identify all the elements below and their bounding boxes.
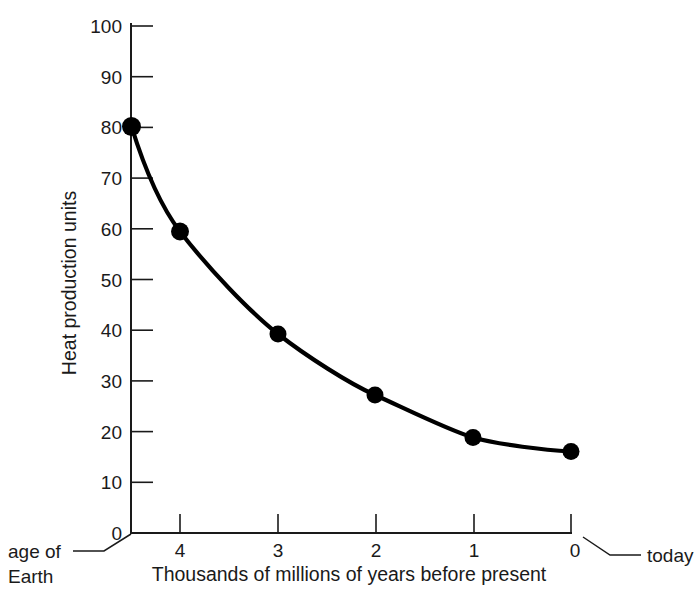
data-point-1 — [171, 223, 189, 241]
y-tick-label-90: 90 — [101, 67, 122, 88]
heat-production-curve — [132, 127, 572, 452]
x-axis-title: Thousands of millions of years before pr… — [152, 563, 547, 585]
age-of-earth-label-line2: Earth — [8, 566, 53, 587]
x-tick-label-0: 0 — [570, 540, 581, 561]
x-tick-label-3: 3 — [273, 540, 284, 561]
age-of-earth-leader-line — [73, 534, 131, 551]
y-tick-label-60: 60 — [101, 219, 122, 240]
data-point-0 — [122, 117, 141, 136]
annotation-today: today — [583, 537, 694, 566]
axis-frame — [131, 24, 571, 533]
x-tick-label-1: 1 — [469, 540, 480, 561]
data-point-2 — [270, 326, 287, 343]
age-of-earth-label-line1: age of — [8, 541, 62, 562]
y-axis-title: Heat production units — [58, 191, 80, 376]
x-axis-tick-labels: 4 3 2 1 0 — [175, 540, 581, 561]
data-point-3 — [367, 387, 384, 404]
x-tick-label-2: 2 — [371, 540, 382, 561]
y-tick-label-80: 80 — [101, 117, 122, 138]
data-points — [122, 117, 580, 460]
today-label: today — [647, 545, 694, 566]
x-axis-ticks — [180, 514, 571, 533]
y-tick-label-50: 50 — [101, 270, 122, 291]
y-tick-label-70: 70 — [101, 168, 122, 189]
x-tick-label-4: 4 — [175, 540, 186, 561]
y-tick-label-10: 10 — [101, 472, 122, 493]
y-tick-label-100: 100 — [90, 16, 122, 37]
y-axis-tick-labels: 100 90 80 70 60 50 40 30 20 10 0 — [90, 16, 122, 544]
y-tick-label-30: 30 — [101, 371, 122, 392]
today-leader-line — [583, 537, 641, 555]
y-tick-label-40: 40 — [101, 320, 122, 341]
y-axis-ticks — [131, 26, 153, 533]
data-point-4 — [465, 429, 482, 446]
data-point-5 — [563, 443, 580, 460]
heat-production-chart: 100 90 80 70 60 50 40 30 20 10 0 4 3 2 1… — [0, 0, 695, 603]
y-tick-label-20: 20 — [101, 422, 122, 443]
chart-svg: 100 90 80 70 60 50 40 30 20 10 0 4 3 2 1… — [0, 0, 695, 603]
